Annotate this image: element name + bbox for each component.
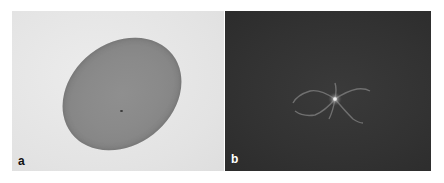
- panel-b-label: b: [231, 153, 238, 165]
- star-structure: [225, 11, 431, 171]
- panel-a-image: a: [12, 11, 224, 171]
- panel-b-image: b: [225, 11, 431, 171]
- cell-center-dot: [120, 110, 123, 112]
- oval-cell: [40, 14, 204, 171]
- panel-a-label: a: [18, 155, 25, 167]
